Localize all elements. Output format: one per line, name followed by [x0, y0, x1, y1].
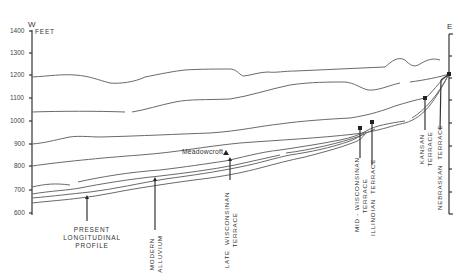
y-tick-1000: 1000 [10, 117, 24, 124]
y-tick-900: 900 [14, 140, 25, 147]
present-profile-line3: PROFILE [70, 242, 114, 250]
late-wisconsinan-label: LATE WISCONSINAN TERRACE [223, 184, 239, 276]
pointer-kansan [423, 96, 427, 130]
kansan-label: KANSAN TERRACE [418, 131, 434, 167]
pointer-present-profile [85, 195, 89, 221]
kansan-line [32, 74, 449, 144]
left-axis [29, 30, 32, 215]
y-tick-1300: 1300 [10, 49, 24, 56]
y-tick-600: 600 [14, 209, 25, 216]
east-label: E [447, 22, 453, 31]
present-profile-line1: PRESENT [70, 226, 114, 234]
illinoian-label: ILLINOIAN TERRACE [369, 164, 377, 236]
meadowcroft-label: Meadowcroft [182, 148, 223, 155]
y-tick-1200: 1200 [10, 71, 24, 78]
unit-label: FEET [35, 28, 55, 35]
pointer-mid-wisconsinan [358, 126, 362, 158]
y-tick-1100: 1100 [10, 94, 24, 101]
y-tick-700: 700 [14, 186, 25, 193]
y-tick-1400: 1400 [10, 27, 24, 34]
nebraskan-label: NEBRASKAN TERRACE [436, 130, 444, 210]
right-axis [449, 34, 453, 214]
present-profile-line2: LONGITUDINAL [60, 234, 124, 242]
present-profile-label: PRESENT LONGITUDINAL PROFILE [70, 226, 114, 250]
modern-alluvium-label: MODERN ALLUVIUM [148, 232, 164, 276]
y-tick-800: 800 [14, 162, 25, 169]
late-wisconsinan-line [32, 129, 375, 194]
illinoian-line [32, 74, 449, 166]
modern-alluvium-line [32, 133, 364, 198]
upland-surface-line [32, 59, 440, 84]
mid-wisconsinan-label: MID - WISCONSINAN TERRACE [353, 160, 369, 232]
meadowcroft-marker [223, 150, 229, 155]
nebraskan-line [32, 74, 449, 112]
mid-wisconsinan-line [32, 74, 449, 187]
